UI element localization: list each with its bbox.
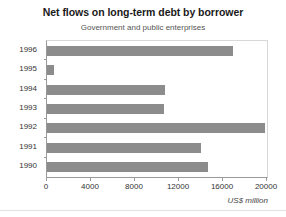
bar-1990	[47, 162, 208, 172]
bar-row	[47, 162, 267, 172]
x-axis-label-4000: 4000	[81, 182, 99, 191]
y-axis-label-1994: 1994	[0, 84, 42, 93]
y-axis-tick	[44, 98, 47, 99]
bar-1996	[47, 46, 233, 56]
bar-1994	[47, 85, 165, 95]
x-axis-tick	[134, 178, 135, 181]
bar-1992	[47, 123, 265, 133]
bar-row	[47, 85, 267, 95]
x-axis-label-8000: 8000	[125, 182, 143, 191]
x-axis-label-12000: 12000	[167, 182, 189, 191]
y-axis-label-1995: 1995	[0, 64, 42, 73]
x-axis-tick	[46, 178, 47, 181]
bar-row	[47, 143, 267, 153]
y-axis-ticks	[42, 40, 47, 178]
y-axis-label-1993: 1993	[0, 103, 42, 112]
y-axis-label-1990: 1990	[0, 161, 42, 170]
chart-title: Net flows on long-term debt by borrower	[0, 6, 286, 18]
y-axis-label-1996: 1996	[0, 45, 42, 54]
bar-series	[47, 41, 267, 177]
y-axis-labels: 1990199119921993199419951996	[0, 40, 42, 178]
x-axis-tick	[178, 178, 179, 181]
x-axis-labels: 040008000120001600020000	[0, 182, 286, 194]
x-axis-label-16000: 16000	[211, 182, 233, 191]
x-axis-label-0: 0	[44, 182, 48, 191]
x-axis-tick	[266, 178, 267, 181]
x-axis-label-20000: 20000	[255, 182, 277, 191]
bar-1995	[47, 65, 54, 75]
y-axis-tick	[44, 79, 47, 80]
chart-subtitle: Government and public enterprises	[0, 23, 286, 32]
y-axis-tick	[44, 157, 47, 158]
chart-figure: Net flows on long-term debt by borrower …	[0, 0, 286, 217]
bar-row	[47, 104, 267, 114]
bar-1991	[47, 143, 201, 153]
y-axis-tick	[44, 59, 47, 60]
bar-row	[47, 123, 267, 133]
bar-1993	[47, 104, 164, 114]
x-axis-tick	[90, 178, 91, 181]
y-axis-tick	[44, 118, 47, 119]
bottom-divider	[0, 210, 286, 211]
y-axis-label-1991: 1991	[0, 142, 42, 151]
y-axis-tick	[44, 137, 47, 138]
bar-row	[47, 46, 267, 56]
x-axis-title: US$ million	[228, 196, 268, 205]
bar-row	[47, 65, 267, 75]
y-axis-label-1992: 1992	[0, 122, 42, 131]
x-axis-tick	[222, 178, 223, 181]
